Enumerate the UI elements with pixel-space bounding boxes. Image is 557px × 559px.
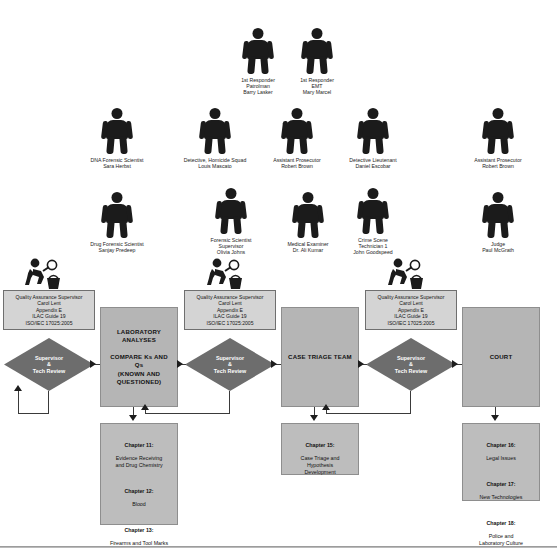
chapter-name: Firearms and Tool Marks: [110, 540, 168, 546]
person-assistant-prosecutor-right: Assistant Prosecutor Robert Brown: [443, 108, 553, 169]
chapter-entry: Chapter 11: Evidence Receiving and Drug …: [103, 436, 175, 469]
arrow-head: [310, 415, 318, 421]
chapter-number: Chapter 18:: [486, 520, 515, 526]
chapter-number: Chapter 12:: [124, 488, 153, 494]
footer-divider: [0, 546, 557, 548]
decision-label: Supervisor & Tech Review: [185, 338, 275, 391]
person-judge: Judge Paul McGrath: [443, 192, 553, 253]
person-detective-lieutenant: Detective Lieutenant Daniel Escobar: [318, 108, 428, 169]
person-icon: [481, 108, 515, 154]
person-label: Forensic Scientist Supervisor Olivia Joh…: [211, 237, 252, 256]
person-icon: [300, 28, 334, 74]
connector-left-loop-up: [18, 390, 19, 414]
chapter-name: New Technologies: [480, 494, 523, 500]
person-drug-forensic-scientist: Drug Forensic Scientist Sanjay Predeep: [62, 192, 172, 253]
chapter-name: Evidence Receiving and Drug Chemistry: [115, 455, 162, 468]
arrow-head: [90, 360, 96, 368]
chapter-name: Police and Laboratory Culture: [479, 533, 523, 546]
diagram-canvas: 1st Responder Patrolman Barry Lasker 1st…: [0, 0, 557, 559]
qa-supervisor-box-left: Quality Assurance Supervisor Carol Lent …: [3, 290, 95, 330]
person-label: Assistant Prosecutor Robert Brown: [474, 157, 522, 169]
person-icon: [280, 108, 314, 154]
investigator-magnifier-icon: [196, 258, 256, 292]
arrow-head: [452, 360, 458, 368]
person-icon: [356, 188, 390, 234]
chapter-entry: Chapter 12: Blood: [103, 481, 175, 507]
person-label: Detective Lieutenant Daniel Escobar: [349, 157, 396, 169]
decision-label: Supervisor & Tech Review: [4, 338, 94, 391]
process-court: COURT: [462, 307, 540, 407]
connector-right-diamond-down: [410, 391, 411, 413]
arrow-head: [177, 360, 183, 368]
person-label: Assistant Prosecutor Robert Brown: [273, 157, 321, 169]
person-icon: [356, 108, 390, 154]
connector-right-loop-up: [326, 410, 327, 414]
chapter-entry: Chapter 17: New Technologies: [465, 475, 537, 501]
chapter-name: Blood: [132, 501, 146, 507]
person-dna-forensic-scientist: DNA Forensic Scientist Sara Herbst: [62, 108, 172, 169]
connector-left-loop-horizontal: [18, 413, 49, 414]
chapter-entry: Chapter 15: Case Triage and Hypothesis D…: [284, 436, 356, 476]
person-label: Judge Paul McGrath: [482, 241, 514, 253]
chapter-number: Chapter 17:: [486, 481, 515, 487]
person-icon: [481, 192, 515, 238]
person-crime-scene-technician: Crime Scene Technician 1 John Goodspeed: [318, 188, 428, 256]
arrow-head: [129, 415, 137, 421]
person-icon: [100, 108, 134, 154]
chapter-entry: Chapter 13: Firearms and Tool Marks: [103, 520, 175, 546]
arrow-head: [322, 404, 330, 410]
qa-supervisor-box-middle: Quality Assurance Supervisor Carol Lent …: [184, 290, 276, 330]
arrow-head: [14, 385, 22, 391]
chapter-name: Case Triage and Hypothesis Development: [301, 455, 340, 474]
chapter-number: Chapter 11:: [125, 442, 154, 448]
arrow-head: [271, 360, 277, 368]
investigator-magnifier-icon: [377, 258, 437, 292]
connector-left-diamond-down: [48, 391, 49, 413]
chapter-number: Chapter 16:: [486, 442, 515, 448]
decision-supervisor-tech-review-right: Supervisor & Tech Review: [366, 338, 456, 391]
chapter-number: Chapter 13:: [124, 527, 153, 533]
arrow-head: [358, 360, 364, 368]
arrow-head: [491, 415, 499, 421]
qa-supervisor-box-right: Quality Assurance Supervisor Carol Lent …: [365, 290, 457, 330]
connector-middle-loop-up: [145, 410, 146, 414]
connector-right-loop-horizontal: [326, 413, 411, 414]
person-label: Crime Scene Technician 1 John Goodspeed: [353, 237, 393, 256]
process-laboratory-analyses: LABORATORY ANALYSES COMPARE Ks AND Qs (K…: [100, 307, 178, 407]
person-label: 1st Responder EMT Mary Marcel: [300, 77, 334, 96]
person-label: Detective, Homicide Squad Louis Mascato: [184, 157, 247, 169]
person-icon: [214, 188, 248, 234]
chapter-list-court: Chapter 16: Legal Issues Chapter 17: New…: [462, 423, 540, 501]
process-case-triage-team: CASE TRIAGE TEAM: [281, 307, 359, 407]
chapter-name: Legal Issues: [486, 455, 516, 461]
connector-middle-loop-horizontal: [145, 413, 230, 414]
chapter-entry: Chapter 16: Legal Issues: [465, 436, 537, 462]
chapter-list-case-triage: Chapter 15: Case Triage and Hypothesis D…: [281, 423, 359, 475]
decision-supervisor-tech-review-middle: Supervisor & Tech Review: [185, 338, 275, 391]
person-first-responder-emt: 1st Responder EMT Mary Marcel: [262, 28, 372, 96]
person-label: Drug Forensic Scientist Sanjay Predeep: [90, 241, 144, 253]
decision-supervisor-tech-review-left: Supervisor & Tech Review: [4, 338, 94, 391]
person-icon: [100, 192, 134, 238]
chapter-entry: Chapter 18: Police and Laboratory Cultur…: [465, 514, 537, 547]
arrow-head: [141, 404, 149, 410]
person-icon: [198, 108, 232, 154]
investigator-magnifier-icon: [14, 258, 74, 292]
chapter-list-laboratory: Chapter 11: Evidence Receiving and Drug …: [100, 423, 178, 525]
connector-middle-diamond-down: [229, 391, 230, 413]
chapter-number: Chapter 15:: [305, 442, 334, 448]
person-label: DNA Forensic Scientist Sara Herbst: [90, 157, 143, 169]
decision-label: Supervisor & Tech Review: [366, 338, 456, 391]
